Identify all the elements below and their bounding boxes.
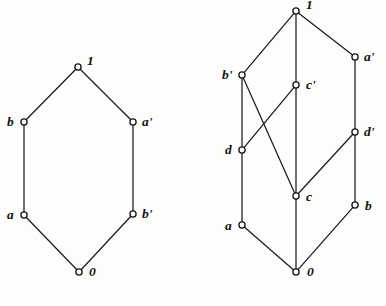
node-label-a: a <box>7 208 14 222</box>
lattice-node-b <box>21 119 27 125</box>
lattice-node-bprime <box>239 72 245 78</box>
node-label-b: b <box>7 115 14 129</box>
left-lattice-edges <box>24 69 133 270</box>
node-label-zero: 0 <box>89 265 96 279</box>
node-label-dprime: d' <box>364 125 375 139</box>
node-label-cprime: c' <box>306 78 316 92</box>
lattice-diagram-canvas <box>0 0 386 306</box>
node-label-bprime: b' <box>142 207 153 221</box>
lattice-edge <box>298 134 353 193</box>
edges-layer <box>24 13 355 270</box>
lattice-edge <box>298 13 352 55</box>
nodes-layer <box>21 8 358 275</box>
node-label-one: 1 <box>87 54 94 68</box>
lattice-node-bprime <box>130 211 136 217</box>
node-label-a: a <box>225 219 232 233</box>
lattice-node-one <box>293 8 299 14</box>
lattice-node-dprime <box>352 129 358 135</box>
lattice-edge <box>81 216 131 269</box>
right-lattice-edges <box>242 13 355 270</box>
node-label-aprime: a' <box>142 115 153 129</box>
lattice-edge <box>26 69 76 120</box>
lattice-edge <box>298 207 353 269</box>
lattice-node-aprime <box>130 119 136 125</box>
node-label-d: d <box>225 143 232 157</box>
node-label-bprime: b' <box>222 68 233 82</box>
lattice-node-a <box>239 222 245 228</box>
node-label-aprime: a' <box>364 50 375 64</box>
lattice-node-cprime <box>293 82 299 88</box>
lattice-node-b <box>352 202 358 208</box>
lattice-edge <box>244 227 293 270</box>
node-label-c: c <box>306 190 312 204</box>
node-label-zero: 0 <box>307 265 314 279</box>
node-label-b: b <box>365 199 372 213</box>
lattice-node-one <box>75 64 81 70</box>
lattice-node-zero <box>76 269 82 275</box>
lattice-edge <box>244 13 294 72</box>
lattice-node-c <box>293 193 299 199</box>
lattice-node-d <box>239 147 245 153</box>
lattice-node-aprime <box>352 54 358 60</box>
right-lattice-nodes <box>239 8 358 275</box>
left-lattice-nodes <box>21 64 136 275</box>
lattice-edge <box>80 69 131 120</box>
lattice-edge <box>26 217 77 270</box>
node-label-one: 1 <box>306 0 313 12</box>
lattice-node-zero <box>293 269 299 275</box>
lattice-figure: 1ba'ab'01a'b'c'd'dcba0 <box>0 0 386 306</box>
lattice-node-a <box>21 212 27 218</box>
